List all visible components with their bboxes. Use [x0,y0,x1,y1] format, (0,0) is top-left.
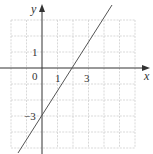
y-axis [39,4,45,154]
x-tick-label-3: 3 [84,72,90,84]
x-axis [0,65,150,71]
origin-label: 0 [32,70,38,82]
x-tick-label-1: 1 [55,72,61,84]
grid [11,20,135,148]
x-axis-label: x [143,69,150,83]
coordinate-plot: y x 0 1 3 1 −3 [0,0,153,154]
y-tick-label-1: 1 [32,46,38,58]
y-axis-label: y [30,2,37,16]
y-axis-arrow-icon [39,4,45,12]
y-tick-label-neg3: −3 [24,110,36,122]
